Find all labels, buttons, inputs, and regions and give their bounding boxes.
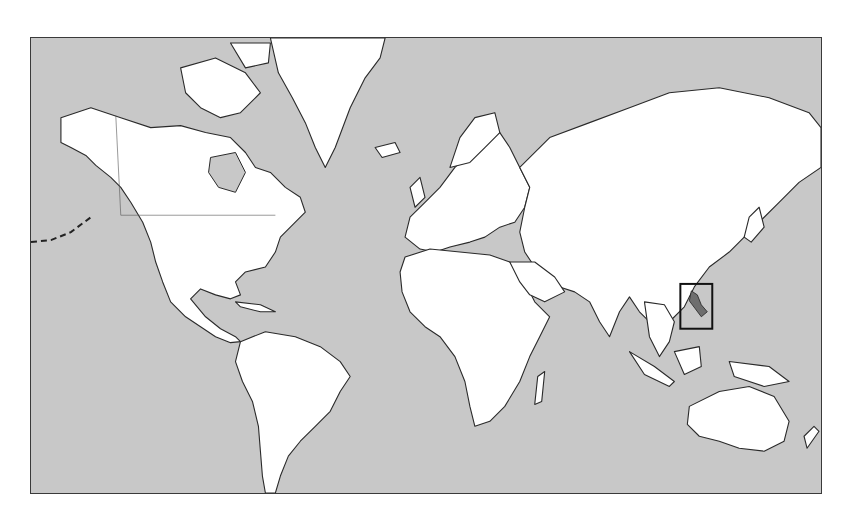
- dateline-dash: [31, 217, 91, 242]
- borneo: [674, 347, 701, 375]
- map-canvas: [31, 38, 821, 493]
- asia: [520, 88, 821, 337]
- philippines: [689, 291, 707, 317]
- world-map: [30, 37, 822, 494]
- australia: [687, 386, 789, 451]
- greenland: [270, 38, 385, 167]
- madagascar: [535, 372, 545, 405]
- cuba: [235, 302, 275, 312]
- south-america: [235, 332, 350, 493]
- north-america: [61, 108, 305, 343]
- iceland: [375, 143, 400, 158]
- uk: [410, 177, 425, 207]
- arctic-islands-2: [230, 43, 270, 68]
- new-guinea: [729, 362, 789, 387]
- indonesia: [629, 352, 674, 387]
- new-zealand: [804, 426, 819, 448]
